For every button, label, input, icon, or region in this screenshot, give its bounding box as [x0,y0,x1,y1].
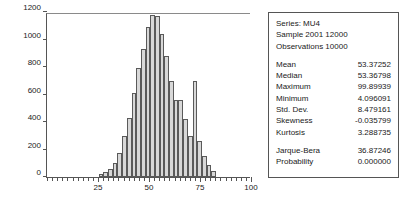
statistic-row: Kurtosis3.288735 [276,127,391,138]
statistic-test-row: Jarque-Bera36.87246 [276,145,391,156]
statistic-row: Minimum4.096091 [276,93,391,104]
x-axis-tick [190,177,191,181]
statistic-row: Mean53.37252 [276,59,391,70]
x-axis-tick [159,177,160,181]
x-axis-tick [103,177,104,181]
statistic-label: Std. Dev. [276,104,308,115]
statistic-label: Skewness [276,115,312,126]
statistics-header-line: Series: MU4 [276,18,391,29]
statistic-value: 99.89939 [358,81,391,92]
x-axis-tick [169,177,170,181]
y-axis-label: 1200 [23,4,41,12]
x-axis-tick [129,177,130,181]
y-axis-label: 1000 [23,32,41,40]
statistic-value: 0.000000 [358,156,391,167]
x-axis-tick [154,177,155,181]
x-axis-tick [149,177,150,182]
x-axis-tick [108,177,109,181]
spacer [276,138,391,145]
spacer [276,52,391,59]
x-axis-tick [139,177,140,181]
statistic-value: 3.288735 [358,127,391,138]
statistic-label: Maximum [276,81,311,92]
statistics-panel: Series: MU4Sample 2001 12000Observations… [268,12,399,178]
x-axis-tick [124,177,125,181]
x-axis-tick [231,177,232,181]
x-axis-tick [175,177,176,181]
statistics-tests: Jarque-Bera36.87246Probability0.000000 [276,145,391,168]
statistic-label: Probability [276,156,313,167]
x-axis-label: 50 [145,184,154,192]
statistic-test-row: Probability0.000000 [276,156,391,167]
x-axis-tick [62,177,63,181]
x-axis-tick [195,177,196,181]
statistics-header-line: Observations 10000 [276,41,391,52]
x-axis-tick [205,177,206,181]
statistic-label: Minimum [276,93,308,104]
statistics-rows: Mean53.37252Median53.36798Maximum99.8993… [276,59,391,138]
histogram-bars [47,14,250,177]
y-axis-label: 800 [28,59,41,67]
statistic-row: Maximum99.89939 [276,81,391,92]
y-axis-label: 600 [28,87,41,95]
x-axis-tick [67,177,68,181]
x-axis-tick [47,177,48,181]
statistic-value: 53.37252 [358,59,391,70]
histogram-screenshot: 020040060080010001200 255075100 Series: … [0,0,407,202]
x-axis-tick [215,177,216,181]
statistics-header: Series: MU4Sample 2001 12000Observations… [276,18,391,52]
x-axis-tick [83,177,84,181]
y-axis-label: 0 [37,169,41,177]
x-axis-tick [210,177,211,181]
statistic-row: Median53.36798 [276,70,391,81]
x-axis-tick [118,177,119,181]
statistic-row: Std. Dev.8.479161 [276,104,391,115]
x-axis-tick [200,177,201,182]
x-axis-tick [57,177,58,181]
x-axis-tick [220,177,221,181]
x-axis-tick [52,177,53,181]
y-axis-label: 400 [28,114,41,122]
x-axis-tick [73,177,74,181]
x-axis-tick [164,177,165,181]
y-axis-tick [43,11,47,12]
x-axis-tick [144,177,145,181]
statistic-value: 36.87246 [358,145,391,156]
x-axis-tick [246,177,247,181]
y-axis-label: 200 [28,142,41,150]
statistic-label: Mean [276,59,296,70]
x-axis-tick [93,177,94,181]
histogram-chart: 020040060080010001200 255075100 [0,0,258,202]
x-axis-label: 100 [244,184,257,192]
x-axis-tick [241,177,242,181]
x-axis-tick [185,177,186,181]
statistic-value: 53.36798 [358,70,391,81]
statistic-value: 8.479161 [358,104,391,115]
x-axis-tick [113,177,114,181]
statistic-value: -0.035799 [355,115,391,126]
x-axis-tick [180,177,181,181]
statistic-row: Skewness-0.035799 [276,115,391,126]
plot-frame: 020040060080010001200 255075100 [46,13,250,178]
histogram-bar [211,171,216,177]
x-axis-tick [236,177,237,181]
x-axis-label: 75 [196,184,205,192]
x-axis-tick [251,177,252,182]
x-axis-tick [134,177,135,181]
statistic-label: Kurtosis [276,127,305,138]
statistic-value: 4.096091 [358,93,391,104]
x-axis-tick [88,177,89,181]
x-axis-tick [226,177,227,181]
x-axis-label: 25 [94,184,103,192]
statistic-label: Jarque-Bera [276,145,320,156]
statistic-label: Median [276,70,302,81]
x-axis-tick [98,177,99,182]
x-axis-tick [78,177,79,181]
statistics-header-line: Sample 2001 12000 [276,29,391,40]
